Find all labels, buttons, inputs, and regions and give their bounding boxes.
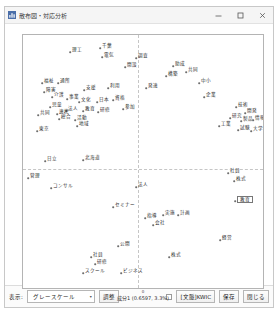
data-point-label: 社員 — [93, 252, 103, 257]
data-point-label: 指導 — [147, 213, 157, 218]
data-point-label: 試験 — [240, 125, 250, 130]
data-point-label: 企業 — [206, 92, 216, 97]
data-point-label: 児童 — [52, 102, 62, 107]
scatter-plot-frame[interactable]: 理工千葉電気調査開設助成共同構築中小発達福祉通所障害支援利用介護事業文化日本資格… — [22, 34, 264, 289]
data-point-label: 通所 — [60, 78, 70, 83]
data-point-label: 福祉 — [44, 78, 54, 83]
data-point-label: 発達 — [148, 83, 158, 88]
data-point-label: スクール — [85, 268, 105, 273]
title-bar: 散布図・対応分析 — [5, 7, 273, 24]
data-point-label: 技術 — [238, 102, 248, 107]
data-point-label: 共同 — [40, 110, 50, 115]
data-point-label: 公開 — [120, 241, 130, 246]
data-point-label: 開設 — [127, 62, 137, 67]
data-point-label: 研修 — [97, 259, 107, 264]
data-point-label: 経営 — [222, 235, 232, 240]
data-point-label: 支援 — [86, 85, 96, 90]
data-point-label: 大学 — [253, 126, 263, 131]
data-point-label: 管理 — [30, 173, 40, 178]
data-point-label: 理工 — [72, 47, 82, 52]
maximize-button[interactable] — [229, 7, 251, 23]
data-point-label: 製品 — [243, 116, 253, 121]
minimize-icon — [214, 11, 223, 20]
data-point-label: 助成 — [175, 61, 185, 66]
data-point-label: 総合 — [61, 114, 71, 119]
data-point-label: 活動 — [77, 115, 87, 120]
data-point-label: コンサル — [53, 183, 73, 188]
data-point-label: 地域 — [79, 121, 89, 126]
data-point-label: 法人 — [68, 106, 78, 111]
data-point-label: 研究 — [232, 113, 242, 118]
data-point-label: 日立 — [47, 156, 57, 161]
data-point-label: 株式 — [171, 252, 181, 257]
x-axis-label: 成分1 (0.6597, 3.3%) — [22, 294, 264, 301]
data-point-label: 社員 — [230, 168, 240, 173]
data-point-label: ビジネス — [123, 268, 143, 273]
data-point-label: 参加 — [125, 104, 135, 109]
data-point-label: 利用 — [110, 83, 120, 88]
data-point-label: 東京 — [39, 126, 49, 131]
data-point-label: 調査 — [138, 53, 148, 58]
maximize-icon — [236, 11, 245, 20]
data-point-label: 計画 — [180, 210, 190, 215]
data-point-label: 教育 — [85, 106, 95, 111]
data-point-label: 共同 — [188, 67, 198, 72]
chart-app-icon — [8, 11, 16, 19]
data-point-label: 工業 — [221, 121, 231, 126]
close-button[interactable] — [251, 7, 273, 23]
data-point-label: 介護 — [54, 92, 64, 97]
data-point-label: 事業 — [69, 94, 79, 99]
data-point-label: 株式 — [236, 176, 246, 181]
data-point-label: 電気 — [104, 52, 114, 57]
data-point-label: 情報 — [255, 115, 265, 120]
data-point-label: 開発 — [247, 108, 257, 113]
data-point-label: 会社 — [155, 220, 165, 225]
data-point-label: 実施 — [165, 210, 175, 215]
window-title: 散布図・対応分析 — [19, 11, 207, 20]
data-point-label: 法人 — [138, 182, 148, 187]
display-mode-label: 表示: — [9, 293, 23, 301]
data-point-label: 北海道 — [85, 155, 100, 160]
data-point-label: 資格 — [115, 95, 125, 100]
data-point-label: 教育 — [237, 196, 253, 203]
plot-area: 成分2 (0.5803, 2.6%) 理工千葉電気調査開設助成共同構築中小発達福… — [5, 24, 273, 285]
minimize-button[interactable] — [207, 7, 229, 23]
data-point-label: 日本 — [99, 97, 109, 102]
horizontal-origin-axis — [23, 169, 263, 170]
data-point-label: セミナー — [115, 202, 135, 207]
application-window: 散布図・対応分析 成分2 (0.5803, 2.6%) 理工千葉電気調査開設助成… — [4, 6, 274, 308]
data-point-label: 研修 — [100, 107, 110, 112]
data-point-label: 文化 — [81, 97, 91, 102]
vertical-origin-axis — [138, 35, 139, 288]
data-point-label: 中小 — [201, 78, 211, 83]
close-icon — [258, 11, 267, 20]
data-point-label: 千葉 — [102, 43, 112, 48]
data-point-label: 構築 — [168, 71, 178, 76]
